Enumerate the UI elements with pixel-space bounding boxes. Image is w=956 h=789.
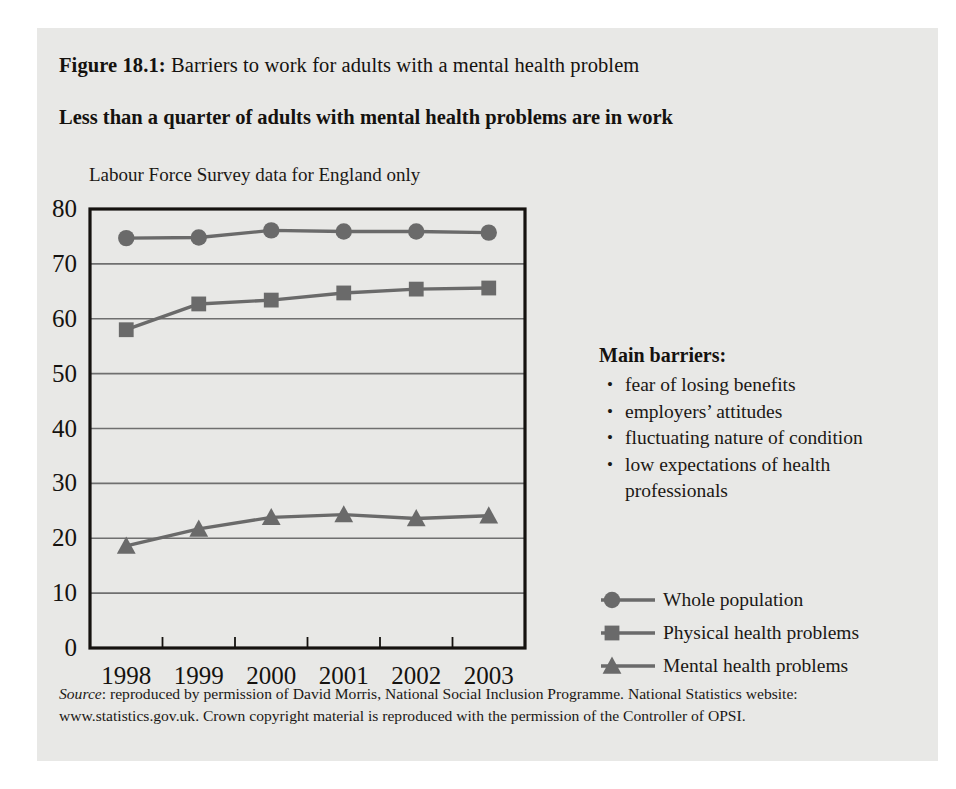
y-axis-tick-label: 40 <box>52 415 77 442</box>
data-point-marker <box>336 286 351 301</box>
barrier-item: •fluctuating nature of condition <box>599 425 929 452</box>
bullet-icon: • <box>607 425 613 452</box>
barrier-item-label: fear of losing benefits <box>625 374 796 395</box>
source-note: Source: reproduced by permission of Davi… <box>59 683 921 726</box>
barrier-item: •fear of losing benefits <box>599 372 929 399</box>
bullet-icon: • <box>607 372 613 399</box>
chart-legend: Whole populationPhysical health problems… <box>599 583 934 682</box>
data-point-marker <box>118 230 134 246</box>
data-point-marker <box>263 222 279 238</box>
barrier-item-label: low expectations of health professionals <box>625 454 830 502</box>
data-point-marker <box>191 229 207 245</box>
data-point-marker <box>408 223 424 239</box>
source-text: : reproduced by permission of David Morr… <box>59 685 798 724</box>
data-series <box>119 281 496 338</box>
series-line <box>126 230 489 238</box>
data-point-marker <box>264 293 279 308</box>
y-axis-tick-label: 0 <box>65 634 78 661</box>
data-point-marker <box>481 281 496 296</box>
y-axis-tick-label: 70 <box>52 250 77 277</box>
data-point-marker <box>481 224 497 240</box>
y-axis-tick-label: 20 <box>52 524 77 551</box>
bullet-icon: • <box>607 452 613 479</box>
y-axis-tick-label: 50 <box>52 360 77 387</box>
bullet-icon: • <box>607 399 613 426</box>
legend-label: Mental health problems <box>657 655 848 677</box>
series-line <box>126 515 489 546</box>
legend-marker <box>605 625 620 640</box>
data-point-marker <box>336 223 352 239</box>
data-point-marker <box>409 282 424 297</box>
data-series <box>117 505 498 553</box>
legend-marker-square-icon <box>599 622 657 644</box>
figure-card: Figure 18.1: Barriers to work for adults… <box>37 28 938 761</box>
legend-item: Mental health problems <box>599 649 934 682</box>
legend-marker-triangle-icon <box>599 655 657 677</box>
y-axis-tick-label: 80 <box>52 195 77 222</box>
series-line <box>126 288 489 330</box>
data-point-marker <box>191 297 206 312</box>
legend-marker-circle-icon <box>599 589 657 611</box>
data-point-marker <box>119 322 134 337</box>
source-label: Source <box>59 685 102 702</box>
legend-marker <box>604 591 620 607</box>
main-barriers-panel: Main barriers: •fear of losing benefits•… <box>599 344 929 505</box>
main-barriers-heading: Main barriers: <box>599 344 929 367</box>
y-axis-tick-label: 60 <box>52 305 77 332</box>
barrier-item: •employers’ attitudes <box>599 399 929 426</box>
barrier-item-label: fluctuating nature of condition <box>625 427 863 448</box>
barrier-item: •low expectations of health professional… <box>599 452 929 505</box>
main-barriers-list: •fear of losing benefits•employers’ atti… <box>599 372 929 505</box>
legend-label: Physical health problems <box>657 622 859 644</box>
y-axis-tick-label: 30 <box>52 469 77 496</box>
legend-item: Physical health problems <box>599 616 934 649</box>
barrier-item-label: employers’ attitudes <box>625 401 782 422</box>
legend-label: Whole population <box>657 589 803 611</box>
data-series <box>118 222 497 246</box>
y-axis-tick-label: 10 <box>52 579 77 606</box>
legend-item: Whole population <box>599 583 934 616</box>
